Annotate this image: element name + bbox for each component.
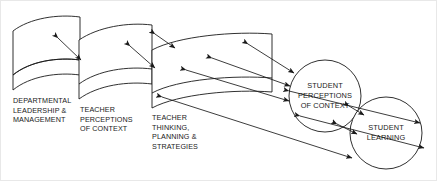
panel-1-base-curve [13,74,80,90]
diagram-canvas: STUDENT PERCEPTIONS OF CONTEXT STUDENT L… [0,0,438,182]
circle-1-line-1: STUDENT [307,81,343,90]
diagram-frame: STUDENT PERCEPTIONS OF CONTEXT STUDENT L… [0,0,438,182]
panel-1-shape [13,16,80,75]
label-departmental-leadership: DEPARTMENTAL LEADERSHIP & MANAGEMENT [13,96,71,125]
panel-departmental-leadership [13,16,80,90]
panel-teacher-perceptions [79,24,152,99]
circle-2-line-1: STUDENT [368,123,404,132]
circle-1-line-3: OF CONTEXT [301,101,350,110]
panel-3-shape [152,33,272,93]
circle-student-perceptions: STUDENT PERCEPTIONS OF CONTEXT [289,60,361,132]
panel-2-base-curve [79,83,152,99]
panel-2-shape [79,24,152,84]
label-teacher-thinking: TEACHER THINKING, PLANNING & STRATEGIES [152,113,198,151]
circle-student-learning: STUDENT LEARNING [350,97,422,169]
label-teacher-perceptions: TEACHER PERCEPTIONS OF CONTEXT [80,105,133,134]
